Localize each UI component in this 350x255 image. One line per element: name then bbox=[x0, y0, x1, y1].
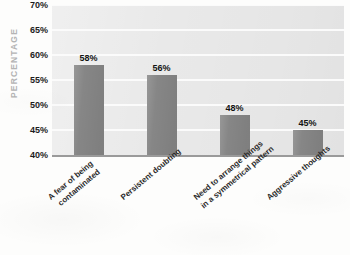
bar-value-label: 48% bbox=[213, 103, 257, 113]
x-axis-line bbox=[52, 155, 344, 157]
x-label-line: Persistent doubting bbox=[119, 159, 169, 203]
x-axis-category-label: Persistent doubting bbox=[119, 159, 169, 203]
y-tick-label: 65% bbox=[18, 25, 48, 35]
x-axis-category-label: A fear of beingcontaminated bbox=[46, 159, 102, 211]
gridline bbox=[52, 29, 344, 31]
bar-value-label: 58% bbox=[67, 53, 111, 63]
y-tick-label: 70% bbox=[18, 0, 48, 10]
bar-value-label: 56% bbox=[140, 63, 184, 73]
bar bbox=[74, 65, 104, 155]
bar-chart: PERCENTAGE 70%65%60%55%50%45%40% 58%56%4… bbox=[0, 0, 350, 255]
x-axis-category-label: Need to arrange thingsin a symmetrical p… bbox=[192, 159, 248, 211]
gridline bbox=[52, 5, 344, 6]
y-axis-title: PERCENTAGE bbox=[7, 0, 21, 138]
x-axis-category-label: Aggressive thoughts bbox=[265, 159, 315, 203]
y-tick-label: 55% bbox=[18, 75, 48, 85]
y-tick-label: 60% bbox=[18, 50, 48, 60]
plot-area bbox=[52, 5, 344, 155]
bar bbox=[147, 75, 177, 155]
x-label-line: Aggressive thoughts bbox=[265, 159, 315, 203]
bar-value-label: 45% bbox=[286, 118, 330, 128]
y-tick-label: 50% bbox=[18, 100, 48, 110]
y-tick-label: 40% bbox=[18, 150, 48, 160]
y-tick-label: 45% bbox=[18, 125, 48, 135]
